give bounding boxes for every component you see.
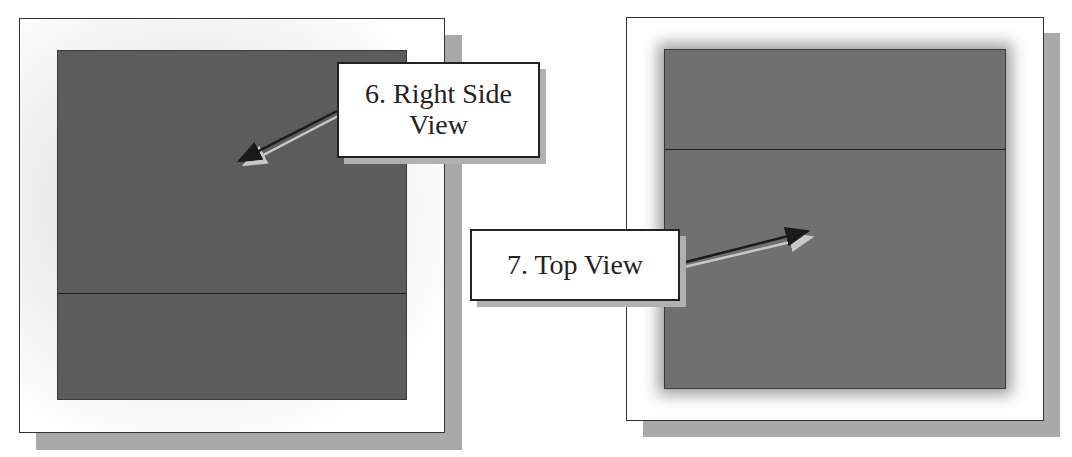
callout-label: 7. Top View: [507, 250, 643, 281]
callout-label: 6. Right Side: [365, 79, 512, 110]
arrow-icon: [239, 111, 340, 165]
callout-label: View: [409, 110, 468, 141]
arrow-icon: [678, 231, 812, 268]
callout-top-view: 7. Top View: [470, 229, 680, 301]
callout-right-side-view: 6. Right Side View: [337, 62, 540, 158]
